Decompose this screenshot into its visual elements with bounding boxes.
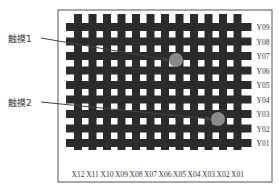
- x-label: X08: [130, 170, 143, 179]
- y-electrode-y05: [66, 81, 252, 89]
- y-label: Y06: [257, 67, 270, 76]
- x-label: X02: [217, 170, 230, 179]
- y-electrode-y01: [66, 139, 252, 147]
- y-label: Y07: [257, 52, 270, 61]
- y-label: Y05: [257, 81, 270, 90]
- y-axis-labels: Y09Y08Y07Y06Y05Y04Y03Y02Y01: [257, 23, 270, 148]
- x-label: X03: [202, 170, 215, 179]
- x-label: X07: [144, 170, 157, 179]
- touch-label: 触摸2: [8, 97, 32, 108]
- y-label: Y03: [257, 110, 270, 119]
- y-label: Y02: [257, 125, 270, 134]
- y-label: Y09: [257, 23, 270, 32]
- x-label: X09: [115, 170, 128, 179]
- touch-circle: [169, 53, 183, 67]
- touch-label: 触摸1: [8, 33, 32, 44]
- y-electrode-y09: [66, 23, 252, 31]
- y-label: Y08: [257, 38, 270, 47]
- x-label: X10: [101, 170, 114, 179]
- touch-grid-diagram: X12X11X10X09X08X07X06X05X04X03X02X01 Y09…: [0, 0, 279, 188]
- x-label: X01: [231, 170, 244, 179]
- x-label: X11: [86, 170, 99, 179]
- x-label: X06: [159, 170, 172, 179]
- y-electrode-y02: [66, 125, 252, 133]
- y-electrode-rows: [66, 23, 252, 147]
- x-label: X04: [188, 170, 201, 179]
- y-label: Y01: [257, 139, 270, 148]
- y-electrode-y04: [66, 96, 252, 104]
- y-electrode-y06: [66, 67, 252, 75]
- y-electrode-y07: [66, 52, 252, 60]
- x-label: X05: [173, 170, 186, 179]
- x-axis-labels: X12X11X10X09X08X07X06X05X04X03X02X01: [72, 170, 245, 179]
- y-electrode-y08: [66, 38, 252, 46]
- y-label: Y04: [257, 96, 270, 105]
- touch-circle: [211, 112, 225, 126]
- x-label: X12: [72, 170, 85, 179]
